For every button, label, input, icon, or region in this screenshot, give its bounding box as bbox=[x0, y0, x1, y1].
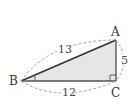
triangle-diagram: A B C 13 12 5 bbox=[0, 0, 134, 112]
vertex-label-b: B bbox=[9, 74, 18, 88]
side-label-ab: 13 bbox=[58, 43, 72, 56]
side-label-ac: 5 bbox=[121, 54, 128, 67]
side-label-bc: 12 bbox=[62, 86, 76, 99]
vertex-label-a: A bbox=[110, 25, 120, 39]
vertex-label-c: C bbox=[111, 86, 120, 100]
